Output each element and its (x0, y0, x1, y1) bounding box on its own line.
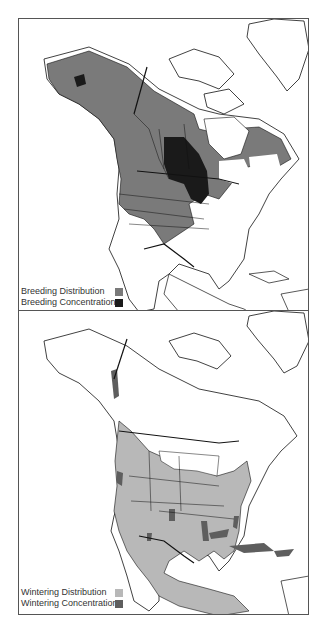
wintering-map-panel: Wintering Distribution Wintering Concent… (18, 310, 309, 615)
legend-label: Breeding Concentration (21, 297, 115, 308)
legend-swatch (115, 288, 123, 296)
breeding-map-panel: Breeding Distribution Breeding Concentra… (18, 18, 309, 311)
legend-item-wintering-distribution: Wintering Distribution (21, 587, 123, 598)
legend-label: Breeding Distribution (21, 286, 115, 297)
wintering-legend: Wintering Distribution Wintering Concent… (21, 587, 123, 609)
legend-swatch (115, 299, 123, 307)
legend-label: Wintering Distribution (21, 587, 115, 598)
legend-swatch (115, 589, 123, 597)
legend-label: Wintering Concentration (21, 598, 115, 609)
legend-item-wintering-concentration: Wintering Concentration (21, 598, 123, 609)
breeding-map (19, 19, 309, 311)
legend-item-breeding-concentration: Breeding Concentration (21, 297, 123, 308)
breeding-legend: Breeding Distribution Breeding Concentra… (21, 286, 123, 308)
wintering-map (19, 311, 309, 615)
legend-swatch (115, 600, 123, 608)
legend-item-breeding-distribution: Breeding Distribution (21, 286, 123, 297)
